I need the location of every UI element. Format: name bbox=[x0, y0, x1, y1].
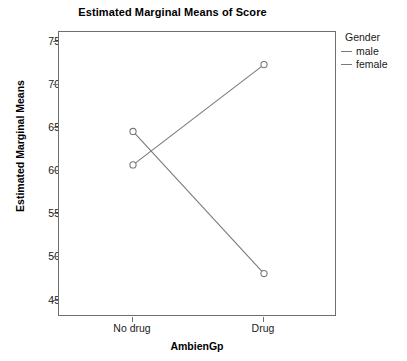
x-tick-label-no-drug: No drug bbox=[87, 322, 177, 334]
legend-label-male: male bbox=[356, 45, 379, 57]
y-axis-title: Estimated Marginal Means bbox=[14, 51, 26, 241]
data-point-male-Drug bbox=[261, 61, 267, 67]
legend-line-icon-female bbox=[341, 64, 352, 65]
data-point-male-No drug bbox=[130, 162, 136, 168]
legend-title: Gender bbox=[345, 31, 407, 43]
data-point-female-No drug bbox=[130, 128, 136, 134]
chart-figure: Estimated Marginal Means of Score 75 70 … bbox=[0, 0, 407, 361]
legend-line-icon-male bbox=[341, 51, 352, 52]
legend-item-female: female bbox=[341, 58, 407, 70]
chart-title: Estimated Marginal Means of Score bbox=[0, 6, 345, 18]
x-axis-title: AmbienGp bbox=[58, 340, 336, 352]
legend-label-female: female bbox=[356, 58, 388, 70]
series-female bbox=[130, 128, 267, 276]
legend-item-male: male bbox=[341, 45, 407, 57]
legend: Gender male female bbox=[341, 31, 407, 71]
x-tick-label-drug: Drug bbox=[218, 322, 308, 334]
series-male bbox=[130, 61, 267, 167]
data-point-female-Drug bbox=[261, 270, 267, 276]
plot-lines-svg bbox=[59, 32, 337, 317]
plot-area bbox=[58, 31, 336, 316]
